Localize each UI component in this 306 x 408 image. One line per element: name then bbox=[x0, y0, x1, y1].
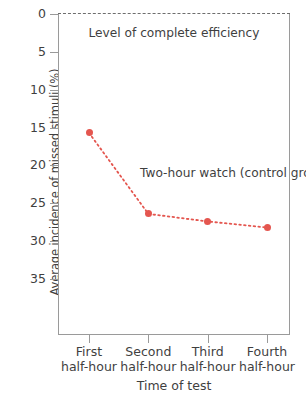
x-tick bbox=[148, 335, 149, 343]
x-tick-label: Firsthalf-hour bbox=[58, 345, 120, 374]
y-tick-label: 15 bbox=[2, 120, 46, 135]
y-tick-label: 20 bbox=[2, 157, 46, 172]
y-tick bbox=[50, 128, 58, 129]
x-tick-label-line1: Fourth bbox=[236, 345, 298, 360]
annotation-series-label: Two-hour watch (control group) bbox=[140, 166, 280, 181]
x-tick-label-line1: Second bbox=[117, 345, 179, 360]
x-tick-label-line1: First bbox=[58, 345, 120, 360]
x-tick bbox=[267, 335, 268, 343]
x-tick-label-line1: Third bbox=[177, 345, 239, 360]
y-tick bbox=[50, 241, 58, 242]
y-tick bbox=[50, 90, 58, 91]
annotation-efficiency: Level of complete efficiency bbox=[84, 26, 264, 41]
y-tick bbox=[50, 203, 58, 204]
chart-figure: Average incidence of missed stimuli (%) … bbox=[0, 0, 306, 408]
y-tick-label: 35 bbox=[2, 271, 46, 286]
x-tick bbox=[89, 335, 90, 343]
x-tick-label: Secondhalf-hour bbox=[117, 345, 179, 374]
y-tick-label: 0 bbox=[2, 6, 46, 21]
y-tick bbox=[50, 279, 58, 280]
data-point bbox=[86, 129, 93, 136]
y-tick bbox=[50, 52, 58, 53]
efficiency-reference-line bbox=[58, 13, 290, 14]
x-tick-label-line2: half-hour bbox=[117, 360, 179, 375]
annotation-series-line2: (control group) bbox=[240, 166, 306, 180]
x-tick-label: Thirdhalf-hour bbox=[177, 345, 239, 374]
annotation-series-line1: Two-hour watch bbox=[140, 166, 236, 180]
x-tick bbox=[208, 335, 209, 343]
y-tick-label: 10 bbox=[2, 82, 46, 97]
y-tick-label: 25 bbox=[2, 195, 46, 210]
y-tick-label: 5 bbox=[2, 44, 46, 59]
data-point bbox=[264, 224, 271, 231]
x-tick-label-line2: half-hour bbox=[236, 360, 298, 375]
x-axis-title: Time of test bbox=[58, 378, 290, 393]
x-tick-label-line2: half-hour bbox=[58, 360, 120, 375]
y-tick bbox=[50, 14, 58, 15]
y-tick bbox=[50, 165, 58, 166]
x-tick-label-line2: half-hour bbox=[177, 360, 239, 375]
x-tick-label: Fourthhalf-hour bbox=[236, 345, 298, 374]
y-tick-label: 30 bbox=[2, 233, 46, 248]
